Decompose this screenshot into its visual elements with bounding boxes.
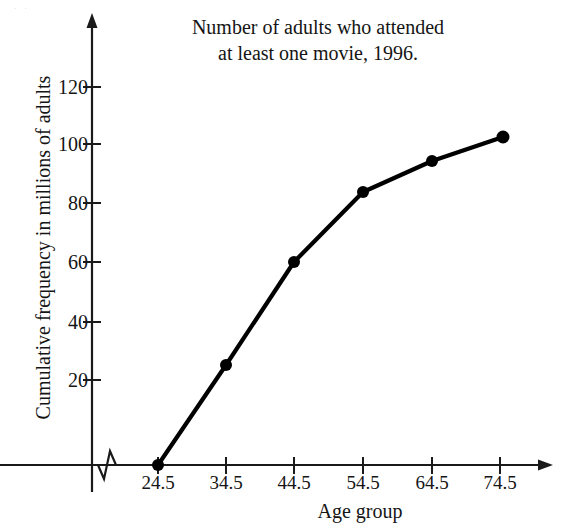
data-point-64-5	[426, 155, 438, 167]
y-axis	[87, 13, 98, 492]
data-point-24-5	[152, 459, 164, 471]
chart-plot-area	[0, 0, 564, 532]
data-point-44-5	[288, 256, 300, 268]
data-point-74-5	[497, 131, 510, 144]
data-point-54-5	[357, 186, 369, 198]
data-point-34-5	[220, 359, 232, 371]
data-series-cumulative-frequency	[152, 131, 510, 472]
x-axis	[0, 460, 553, 471]
chart-figure: . . Number of adults who attended at lea…	[0, 0, 564, 532]
